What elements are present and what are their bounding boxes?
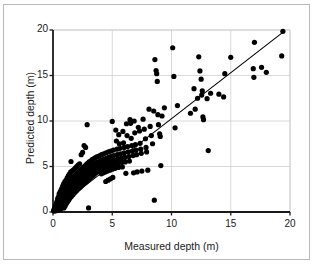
x-tick-label: 10 <box>161 218 183 229</box>
y-axis-label-wrapper: Predicted depth (m) <box>20 27 34 209</box>
figure-container: 05101520 05101520 Measured depth (m) Pre… <box>0 0 318 265</box>
x-tick-label: 0 <box>42 218 64 229</box>
x-tick-label: 20 <box>279 218 301 229</box>
y-axis-label: Predicted depth (m) <box>24 72 36 164</box>
x-tick-label: 15 <box>220 218 242 229</box>
gridlines <box>53 30 290 212</box>
x-axis-label: Measured depth (m) <box>53 240 290 252</box>
x-tick-label: 5 <box>101 218 123 229</box>
